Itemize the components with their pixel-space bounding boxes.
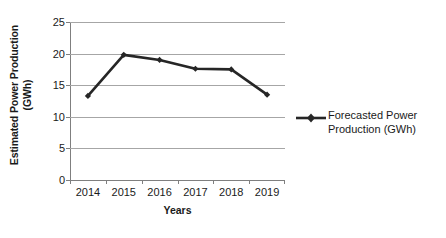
plot-area (70, 22, 285, 180)
x-axis-tick-label: 2017 (183, 186, 207, 198)
x-axis-tick-label: 2014 (76, 186, 100, 198)
y-axis-tick-label: 5 (59, 143, 65, 154)
y-axis-tick-label: 10 (53, 111, 65, 122)
y-axis-title-line1: Estimated Power Production (8, 25, 21, 165)
series-line (88, 55, 267, 96)
x-axis-line (70, 180, 285, 181)
x-axis-title: Years (70, 204, 285, 216)
y-axis-tick-label: 25 (53, 17, 65, 28)
x-axis-tick-labels: 201420152016201720182019 (70, 186, 285, 202)
y-axis-tick-label: 0 (59, 175, 65, 186)
series-forecasted-power-production (70, 22, 285, 180)
chart-legend: Forecasted Power Production (GWh) (296, 108, 444, 136)
legend-entry-label-line1: Forecasted Power (328, 108, 417, 122)
y-axis-tick-labels: 0510152025 (42, 16, 68, 184)
data-point-marker (192, 66, 198, 72)
y-axis-tick-label: 20 (53, 48, 65, 59)
line-chart: Estimated Power Production (GWh) 0510152… (0, 0, 446, 238)
x-axis-tick-label: 2015 (112, 186, 136, 198)
data-point-marker (156, 57, 162, 63)
y-axis-title: Estimated Power Production (GWh) (0, 0, 42, 190)
x-axis-tick-label: 2019 (255, 186, 279, 198)
x-axis-tick-label: 2018 (219, 186, 243, 198)
legend-entry-label-line2: Production (GWh) (328, 122, 417, 136)
y-axis-tick-label: 15 (53, 80, 65, 91)
legend-entry-label: Forecasted Power Production (GWh) (328, 108, 417, 136)
y-axis-title-line2: (GWh) (21, 25, 34, 165)
line-diamond-marker (296, 113, 326, 123)
x-axis-tick-label: 2016 (147, 186, 171, 198)
